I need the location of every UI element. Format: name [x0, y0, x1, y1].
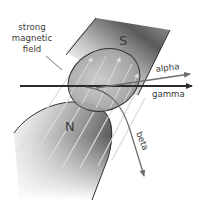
alpha-label: alpha — [155, 61, 180, 74]
field-label-line2: magnetic — [12, 33, 53, 43]
radiation-deflection-diagram: strong magnetic field S N alpha gamma be… — [0, 0, 207, 205]
south-pole-label: S — [119, 33, 127, 48]
north-magnet — [14, 102, 112, 200]
field-label-line1: strong — [18, 22, 45, 32]
north-pole-label: N — [65, 119, 75, 134]
beta-label: beta — [134, 130, 151, 152]
field-label-line3: field — [23, 44, 42, 54]
field-label-leader — [46, 56, 62, 70]
gamma-label: gamma — [152, 89, 185, 99]
